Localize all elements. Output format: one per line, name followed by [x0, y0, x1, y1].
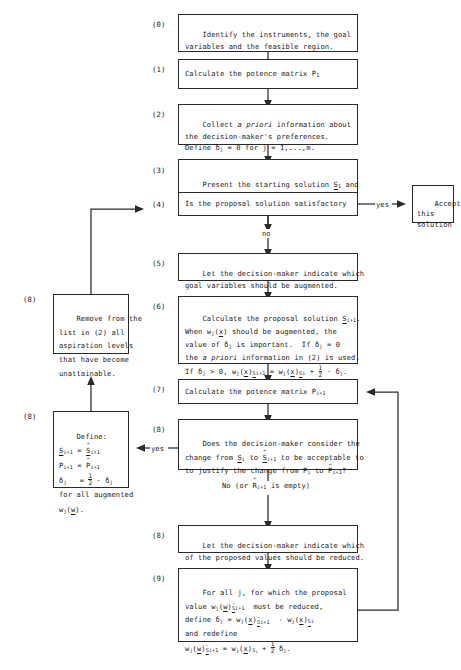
step-number-9: (9)	[152, 574, 165, 583]
step-number-0: (0)	[152, 20, 165, 29]
edge-label-yes-from-8: yes	[150, 444, 165, 453]
step-box-8[interactable]: Does the decision-maker consider the cha…	[178, 419, 358, 470]
step-box-4[interactable]: Is the proposal solution satisfactory	[178, 192, 358, 216]
accept-solution-box[interactable]: Accept this solution	[412, 185, 454, 223]
step-number-8-remove: (8)	[23, 295, 36, 304]
step-number-8-define: (8)	[23, 412, 36, 421]
step-number-7: (7)	[152, 385, 165, 394]
step-box-0[interactable]: Identify the instruments, the goal varia…	[178, 14, 358, 52]
step-number-4: (4)	[152, 200, 165, 209]
step-text-4: Is the proposal solution satisfactory	[185, 198, 347, 209]
step-text-8-reduce: Let the decision-maker indicate which of…	[185, 541, 364, 561]
step-text-5: Let the decision-maker indicate which go…	[185, 269, 364, 289]
step-box-8-define[interactable]: Define: Si+1 = Si+1 Pi+1 = Pi+1 δj = 12 …	[53, 411, 129, 488]
step-number-6: (6)	[152, 302, 165, 311]
step-number-8: (8)	[152, 425, 165, 434]
step-text-8: Does the decision-maker consider the cha…	[185, 439, 364, 476]
step-number-2: (2)	[152, 110, 165, 119]
step-box-2[interactable]: Collect a priori information about the d…	[178, 104, 358, 145]
edge-label-no-from-8: No (or Ri+1 is empty)	[221, 481, 311, 490]
step-box-8-remove[interactable]: Remove from the list in (2) all aspirati…	[53, 294, 129, 354]
step-text-8-define: Define: Si+1 = Si+1 Pi+1 = Pi+1 δj = 12 …	[59, 432, 133, 514]
step-box-6[interactable]: Calculate the proposal solution Si+1. Wh…	[178, 296, 358, 364]
step-box-9[interactable]: For all j, for which the proposal value …	[178, 568, 358, 642]
step-box-1[interactable]: Calculate the potence matrix P1	[178, 59, 358, 89]
edge-label-no-from-4: no	[261, 229, 272, 238]
step-text-0: Identify the instruments, the goal varia…	[185, 30, 351, 50]
step-number-1: (1)	[152, 65, 165, 74]
step-box-7[interactable]: Calculate the potence matrix Pi+1	[178, 379, 358, 404]
step-number-5: (5)	[152, 259, 165, 268]
step-box-8-reduce[interactable]: Let the decision-maker indicate which of…	[178, 525, 358, 553]
step-text-1: Calculate the potence matrix P1	[185, 68, 319, 79]
step-text-7: Calculate the potence matrix Pi+1	[185, 386, 326, 397]
edge-label-yes-accept: yes	[375, 200, 390, 209]
step-number-8-reduce: (8)	[152, 531, 165, 540]
step-text-6: Calculate the proposal solution Si+1. Wh…	[185, 314, 361, 376]
step-number-3: (3)	[152, 166, 165, 175]
step-box-5[interactable]: Let the decision-maker indicate which go…	[178, 253, 358, 281]
